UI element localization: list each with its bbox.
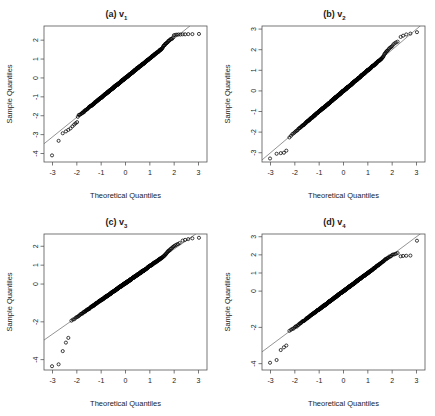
- x-tick-label: 0: [341, 377, 345, 384]
- data-point: [268, 361, 271, 364]
- y-tick-label: 1: [249, 271, 256, 275]
- x-tick-label: -1: [316, 169, 322, 176]
- x-tick-label: -3: [267, 377, 273, 384]
- data-point: [415, 31, 418, 34]
- x-tick-label: -3: [49, 377, 55, 384]
- data-point: [197, 236, 200, 239]
- y-tick-label: -4: [32, 356, 39, 362]
- x-tick-label: 1: [365, 377, 369, 384]
- x-axis-label: Theoretical Quantiles: [90, 399, 161, 408]
- x-tick-label: -2: [74, 169, 80, 176]
- x-tick-label: 2: [390, 169, 394, 176]
- x-tick-label: 3: [414, 377, 418, 384]
- data-point: [57, 139, 60, 142]
- data-point: [61, 132, 64, 135]
- data-point: [279, 349, 282, 352]
- data-point: [191, 33, 194, 36]
- data-point: [64, 341, 67, 344]
- data-point: [279, 152, 282, 155]
- plot-frame: [44, 234, 207, 370]
- y-tick-label: -2: [249, 129, 256, 135]
- x-tick-label: 0: [341, 169, 345, 176]
- data-point: [415, 239, 418, 242]
- y-axis-label: Sample Quantiles: [5, 272, 14, 331]
- y-tick-label: 3: [249, 235, 256, 239]
- y-axis-label: Sample Quantiles: [5, 64, 14, 123]
- y-tick-label: -3: [249, 150, 256, 156]
- data-point: [67, 336, 70, 339]
- x-tick-label: 2: [390, 377, 394, 384]
- x-axis-label: Theoretical Quantiles: [90, 191, 161, 200]
- x-tick-label: 3: [197, 377, 201, 384]
- data-point: [191, 237, 194, 240]
- qq-panel-c: (c) v3-3-2-10123210-2-4Theoretical Quant…: [0, 208, 217, 416]
- x-tick-label: 1: [365, 169, 369, 176]
- y-tick-label: 0: [249, 89, 256, 93]
- data-point: [50, 365, 53, 368]
- qq-panel-b: (b) v2-3-2-101233210-1-2-3Theoretical Qu…: [218, 0, 435, 208]
- y-tick-label: 2: [32, 244, 39, 248]
- y-tick-label: -1: [32, 94, 39, 100]
- x-tick-label: -1: [316, 377, 322, 384]
- y-tick-label: 1: [249, 68, 256, 72]
- x-tick-label: -2: [291, 377, 297, 384]
- x-tick-label: -3: [267, 169, 273, 176]
- qq-plot-figure: (a) v1-3-2-10123210-1-2-3-4Theoretical Q…: [0, 0, 435, 416]
- y-tick-label: -1: [249, 108, 256, 114]
- y-tick-label: -3: [32, 131, 39, 137]
- x-tick-label: -3: [49, 169, 55, 176]
- y-tick-label: -2: [32, 113, 39, 119]
- y-tick-label: -2: [32, 319, 39, 325]
- panel-title: (a) v1: [106, 9, 129, 21]
- qq-panel-a: (a) v1-3-2-10123210-1-2-3-4Theoretical Q…: [0, 0, 217, 208]
- data-point: [187, 33, 190, 36]
- panel-title: (c) v3: [106, 217, 129, 229]
- plot-frame: [262, 26, 425, 162]
- y-tick-label: 1: [32, 263, 39, 267]
- x-tick-label: 0: [124, 169, 128, 176]
- y-tick-label: -2: [249, 324, 256, 330]
- y-tick-label: 0: [32, 76, 39, 80]
- x-tick-label: -2: [74, 377, 80, 384]
- y-tick-label: 2: [32, 38, 39, 42]
- data-point: [408, 254, 411, 257]
- x-tick-label: 3: [414, 169, 418, 176]
- x-tick-label: 0: [124, 377, 128, 384]
- data-point: [268, 157, 271, 160]
- y-tick-label: 0: [32, 282, 39, 286]
- x-tick-label: 1: [148, 169, 152, 176]
- x-tick-label: 2: [172, 377, 176, 384]
- x-tick-label: 2: [172, 169, 176, 176]
- data-point: [284, 344, 287, 347]
- panel-title: (d) v4: [323, 217, 346, 229]
- plot-frame: [44, 26, 207, 162]
- x-tick-label: -1: [98, 377, 104, 384]
- qq-panel-d: (d) v4-3-2-101233210-2-4Theoretical Quan…: [218, 208, 435, 416]
- data-point: [197, 32, 200, 35]
- y-axis-label: Sample Quantiles: [223, 64, 232, 123]
- y-tick-label: 2: [249, 253, 256, 257]
- data-point: [284, 149, 287, 152]
- y-tick-label: -4: [249, 360, 256, 366]
- x-axis-label: Theoretical Quantiles: [308, 399, 379, 408]
- data-point: [50, 154, 53, 157]
- x-tick-label: -2: [291, 169, 297, 176]
- data-point: [275, 152, 278, 155]
- x-tick-label: 1: [148, 377, 152, 384]
- y-tick-label: 3: [249, 27, 256, 31]
- data-point: [404, 254, 407, 257]
- y-tick-label: 1: [32, 57, 39, 61]
- data-point: [61, 350, 64, 353]
- x-tick-label: 3: [197, 169, 201, 176]
- x-tick-label: -1: [98, 169, 104, 176]
- y-tick-label: 2: [249, 48, 256, 52]
- data-point: [57, 363, 60, 366]
- y-tick-label: -4: [32, 150, 39, 156]
- data-point: [275, 358, 278, 361]
- y-tick-label: 0: [249, 289, 256, 293]
- y-axis-label: Sample Quantiles: [223, 272, 232, 331]
- panel-title: (b) v2: [323, 9, 346, 21]
- data-point: [404, 33, 407, 36]
- x-axis-label: Theoretical Quantiles: [308, 191, 379, 200]
